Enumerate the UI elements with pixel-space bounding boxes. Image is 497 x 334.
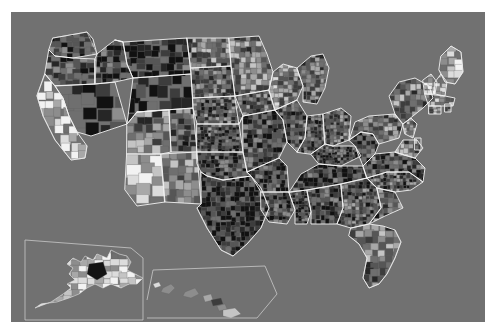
county-region xyxy=(230,89,234,94)
county-region xyxy=(304,141,307,144)
county-region xyxy=(78,249,88,256)
county-region xyxy=(298,221,302,224)
county-region xyxy=(235,149,239,152)
county-region xyxy=(205,156,209,160)
county-region xyxy=(49,42,56,48)
county-region xyxy=(291,125,296,128)
county-region xyxy=(96,84,110,99)
county-region xyxy=(178,118,184,124)
county-region xyxy=(236,186,241,192)
county-region xyxy=(232,149,236,152)
county-region xyxy=(183,288,199,298)
county-region xyxy=(153,282,161,288)
county-region xyxy=(158,85,168,97)
county-region xyxy=(417,100,423,106)
county-region xyxy=(86,289,95,296)
county-region xyxy=(279,101,284,106)
county-region xyxy=(160,57,167,63)
county-region xyxy=(256,109,261,113)
county-region xyxy=(224,172,229,176)
county-region xyxy=(73,79,80,85)
county-region xyxy=(39,266,48,273)
county-region xyxy=(31,284,40,291)
county-region xyxy=(289,72,294,77)
county-region xyxy=(264,179,268,183)
county-region xyxy=(223,308,241,318)
county-region xyxy=(206,53,210,58)
county-region xyxy=(169,57,176,65)
county-region xyxy=(268,171,273,175)
county-region xyxy=(263,184,267,188)
county-region xyxy=(225,191,230,195)
county-region xyxy=(55,272,65,279)
county-region xyxy=(235,227,240,232)
county-region xyxy=(39,254,48,260)
county-region xyxy=(136,265,144,272)
county-region xyxy=(295,201,298,204)
county-region xyxy=(222,80,226,85)
county-region xyxy=(291,112,295,116)
county-region xyxy=(201,156,206,160)
county-region xyxy=(224,176,228,180)
county-region xyxy=(79,296,90,304)
county-region xyxy=(379,118,384,122)
county-region xyxy=(142,249,151,256)
county-region xyxy=(379,130,384,135)
county-region xyxy=(79,290,90,297)
county-region xyxy=(373,118,378,122)
county-region xyxy=(366,141,370,146)
county-region xyxy=(404,140,409,144)
county-region xyxy=(78,277,87,284)
county-region xyxy=(249,217,255,221)
county-region xyxy=(306,71,310,75)
county-region xyxy=(212,230,217,236)
county-region xyxy=(204,79,209,83)
county-region xyxy=(348,210,353,214)
county-region xyxy=(363,122,368,126)
county-region xyxy=(225,124,229,127)
county-region xyxy=(403,148,408,154)
county-region xyxy=(231,182,235,186)
county-region xyxy=(135,255,143,263)
county-region xyxy=(211,139,215,142)
county-region xyxy=(226,216,232,220)
county-region xyxy=(311,66,316,71)
county-region xyxy=(383,182,386,185)
county-region xyxy=(89,67,95,72)
county-region xyxy=(292,89,297,93)
county-region xyxy=(95,73,101,78)
county-region xyxy=(325,197,331,201)
county-region xyxy=(94,302,102,308)
county-region xyxy=(144,145,152,154)
county-region xyxy=(107,45,115,50)
county-region xyxy=(326,126,330,130)
county-region xyxy=(202,38,207,42)
county-region xyxy=(31,254,40,260)
county-region xyxy=(283,89,288,93)
county-region xyxy=(219,155,224,159)
county-region xyxy=(227,117,231,121)
county-region xyxy=(324,66,329,70)
county-region xyxy=(375,131,379,135)
county-region xyxy=(61,116,71,125)
county-region xyxy=(279,204,283,208)
figure-root xyxy=(0,0,497,334)
county-region xyxy=(175,57,183,63)
county-region xyxy=(302,95,306,99)
county-region xyxy=(204,130,207,134)
county-region xyxy=(435,98,440,102)
county-region xyxy=(249,192,254,197)
county-region xyxy=(38,302,49,310)
county-region xyxy=(103,295,113,303)
county-region xyxy=(129,51,137,57)
county-region xyxy=(293,93,298,97)
county-region xyxy=(32,259,42,266)
county-region xyxy=(217,79,222,85)
county-region xyxy=(71,302,80,308)
county-region xyxy=(231,221,236,225)
county-region xyxy=(304,201,307,204)
county-region xyxy=(211,156,215,160)
county-region xyxy=(348,214,351,218)
county-region xyxy=(218,145,222,148)
county-region xyxy=(161,284,175,294)
